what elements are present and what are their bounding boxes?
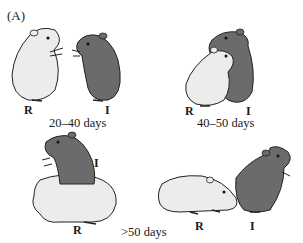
scene-3-intruder-label: I <box>94 156 99 171</box>
scene-1-intruder-hamster <box>72 33 120 101</box>
scene-2-resident-hamster <box>186 47 234 106</box>
scene-1-age-label: 20–40 days <box>49 116 106 131</box>
scene-2-age-label: 40–50 days <box>197 116 254 131</box>
figure-illustration <box>0 0 303 243</box>
scene-4-intruder-label: I <box>250 219 255 234</box>
panel-label: (A) <box>7 8 25 24</box>
scene-3-intruder-hamster <box>42 132 95 184</box>
scene-1-resident-hamster <box>12 28 63 101</box>
scene-4-resident-hamster <box>158 176 237 214</box>
scene-3-age-label: >50 days <box>121 225 167 240</box>
scene-3-resident-label: R <box>73 223 82 238</box>
scene-4-resident-label: R <box>195 219 204 234</box>
scene-2-resident-label: R <box>185 104 194 119</box>
scene-4-intruder-hamster <box>236 147 291 212</box>
scene-1-resident-label: R <box>24 103 33 118</box>
